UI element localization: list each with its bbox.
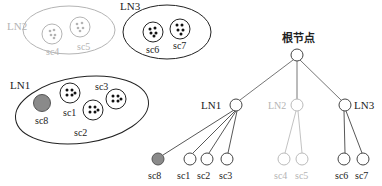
tree-leaf-sc5: sc5 [295,153,308,181]
tree-leaf-sc3: sc3 [219,153,233,181]
tree-node-ln3-label: LN3 [354,99,375,111]
tree-node-ln2-label: LN2 [268,100,286,111]
cluster-ln1: LN1 sc8 sc1 sc2 sc3 [10,68,153,152]
tree: 根节点 LN1 LN2 LN3 sc8 sc1 sc2 [148,31,375,181]
tree-leaf-sc3-label: sc3 [219,170,232,181]
node-sc3: sc3 [95,81,126,109]
node-sc2-label: sc2 [74,127,87,138]
node-sc1-label: sc1 [63,107,76,118]
node-sc5: sc5 [70,17,90,52]
node-sc6-label: sc6 [146,44,159,55]
node-sc7: sc7 [170,19,190,51]
cluster-ln3: LN3 sc6 sc7 [120,0,211,59]
tree-leaf-sc1-label: sc1 [177,170,190,181]
tree-leaf-sc6-label: sc6 [335,170,348,181]
tree-root-label: 根节点 [282,31,315,45]
cluster-ln2-label: LN2 [7,20,27,32]
tree-node-ln3: LN3 [339,99,375,111]
node-sc7-label: sc7 [173,40,186,51]
tree-node-ln1: LN1 [201,99,242,111]
node-sc4: sc4 [42,24,62,57]
tree-leaf-sc7: sc7 [355,153,369,181]
tree-leaf-sc2: sc2 [197,153,213,181]
node-sc3-label: sc3 [95,81,108,92]
node-sc2: sc2 [74,100,103,138]
tree-root-node: 根节点 [282,31,315,61]
tree-node-ln1-label: LN1 [201,99,221,111]
tree-leaf-sc7-label: sc7 [355,170,368,181]
node-sc8-label: sc8 [35,115,48,126]
node-sc6: sc6 [143,22,163,55]
cluster-ln2: LN2 sc4 sc5 [7,6,115,57]
tree-leaf-sc4: sc4 [274,153,290,181]
tree-node-ln2: LN2 [268,99,303,111]
node-sc8: sc8 [34,95,51,127]
tree-leaf-sc6: sc6 [335,153,350,181]
tree-leaf-sc8: sc8 [148,153,164,181]
cluster-tree-diagram: LN2 sc4 sc5 LN3 sc6 [0,0,382,186]
tree-leaf-sc2-label: sc2 [197,170,210,181]
cluster-ln3-label: LN3 [120,0,141,12]
node-sc5-label: sc5 [77,41,90,52]
tree-leaf-sc5-label: sc5 [295,170,308,181]
node-sc1: sc1 [60,83,80,118]
tree-leaf-sc8-label: sc8 [148,170,161,181]
tree-leaf-sc1: sc1 [177,153,196,181]
cluster-ln1-label: LN1 [10,79,30,91]
tree-leaf-sc4-label: sc4 [274,170,287,181]
node-sc4-label: sc4 [46,46,59,57]
